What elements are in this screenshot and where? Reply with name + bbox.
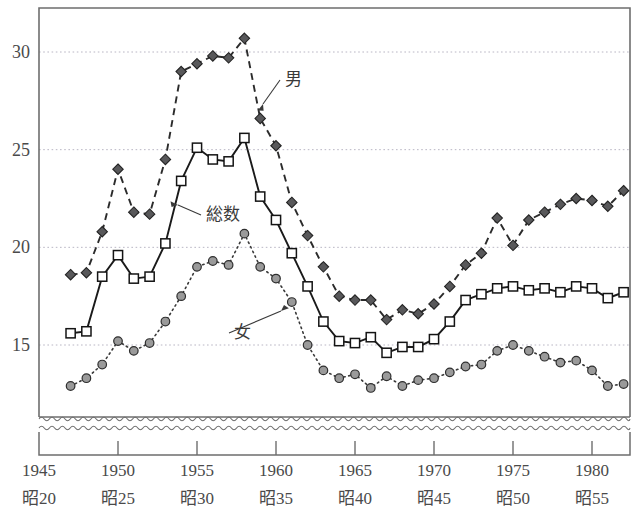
data-point xyxy=(350,295,360,305)
y-tick-label-15: 15 xyxy=(12,335,30,355)
data-point xyxy=(82,374,91,383)
data-point xyxy=(193,263,202,272)
data-point xyxy=(397,305,407,315)
data-point xyxy=(540,284,549,293)
data-point xyxy=(177,176,186,185)
data-point xyxy=(208,155,217,164)
y-tick-label-20: 20 xyxy=(12,237,30,257)
data-point xyxy=(144,209,154,219)
data-point xyxy=(414,376,423,385)
series-label-male-leader xyxy=(263,80,280,104)
series-line-女 xyxy=(71,234,624,388)
data-point xyxy=(130,347,139,356)
series-line-総数 xyxy=(71,138,624,353)
data-point xyxy=(493,284,502,293)
data-point xyxy=(414,342,423,351)
axis-break-symbol xyxy=(39,417,630,429)
x-tick-label-japanese-1970: 昭45 xyxy=(417,489,451,508)
data-point xyxy=(239,33,249,43)
data-point xyxy=(287,249,296,258)
data-point xyxy=(303,282,312,291)
data-point xyxy=(508,240,518,250)
data-point xyxy=(492,213,502,223)
data-point xyxy=(587,195,597,205)
x-tick-label-western-1970: 1970 xyxy=(417,461,451,480)
data-point xyxy=(350,338,359,347)
data-point xyxy=(192,143,201,152)
data-point xyxy=(382,348,391,357)
x-tick-label-japanese-1950: 昭25 xyxy=(101,489,135,508)
y-axis-labels: 15202530 xyxy=(12,42,30,355)
data-point xyxy=(556,288,565,297)
data-point xyxy=(446,368,455,377)
x-tick-label-western-1945: 1945 xyxy=(22,461,56,480)
series-label-male: 男 xyxy=(285,69,302,89)
x-tick-label-japanese-1945: 昭20 xyxy=(22,489,56,508)
x-tick-label-western-1950: 1950 xyxy=(101,461,135,480)
x-tick-label-japanese-1980: 昭55 xyxy=(575,489,609,508)
data-point xyxy=(524,286,533,295)
data-point xyxy=(240,133,249,142)
data-point xyxy=(288,298,297,307)
data-point xyxy=(224,157,233,166)
data-point xyxy=(572,356,581,365)
data-point xyxy=(145,339,154,348)
x-tick-label-japanese-1960: 昭35 xyxy=(259,489,293,508)
data-point xyxy=(209,257,218,266)
data-point xyxy=(334,291,344,301)
data-point xyxy=(161,317,170,326)
data-point xyxy=(98,360,107,369)
data-point xyxy=(445,317,454,326)
line-chart-canvas: 15202530 男総数女 1945昭201950昭251955昭301960昭… xyxy=(0,0,642,522)
data-point xyxy=(366,333,375,342)
data-point xyxy=(556,358,565,367)
data-point xyxy=(524,215,534,225)
x-axis-labels: 1945昭201950昭251955昭301960昭351965昭401970昭… xyxy=(22,461,609,508)
series-label-total: 総数 xyxy=(206,204,240,224)
data-point xyxy=(113,164,123,174)
data-point xyxy=(587,284,596,293)
data-point xyxy=(525,347,534,356)
data-point xyxy=(367,384,376,393)
data-point xyxy=(335,336,344,345)
data-point xyxy=(66,329,75,338)
data-point xyxy=(192,59,202,69)
series-女 xyxy=(66,229,628,392)
data-point xyxy=(97,227,107,237)
wavy-break-upper xyxy=(39,417,630,420)
data-point xyxy=(98,272,107,281)
series-callouts: 男総数女 xyxy=(170,69,302,342)
data-point xyxy=(461,295,470,304)
x-tick-label-western-1960: 1960 xyxy=(259,461,293,480)
data-point xyxy=(318,262,328,272)
data-point xyxy=(413,309,423,319)
data-point xyxy=(445,281,455,291)
chart-figure: 15202530 男総数女 1945昭201950昭251955昭301960昭… xyxy=(0,0,642,522)
x-tick-label-japanese-1955: 昭30 xyxy=(180,489,214,508)
data-point xyxy=(160,154,170,164)
data-point xyxy=(113,251,122,260)
data-point xyxy=(303,341,312,350)
data-point xyxy=(619,380,628,389)
data-point xyxy=(145,272,154,281)
data-point xyxy=(114,337,123,346)
data-point xyxy=(319,366,328,375)
data-point xyxy=(319,317,328,326)
data-point xyxy=(604,382,613,391)
data-point xyxy=(256,192,265,201)
x-tick-label-western-1975: 1975 xyxy=(496,461,530,480)
data-point xyxy=(176,66,186,76)
data-point xyxy=(540,352,549,361)
data-point xyxy=(255,113,265,123)
x-tick-label-japanese-1965: 昭40 xyxy=(338,489,372,508)
data-point xyxy=(572,282,581,291)
y-tick-label-25: 25 xyxy=(12,140,30,160)
data-point xyxy=(477,290,486,299)
data-point xyxy=(161,239,170,248)
data-point xyxy=(571,193,581,203)
data-point xyxy=(603,294,612,303)
data-point xyxy=(430,374,439,383)
data-point xyxy=(398,382,407,391)
data-point xyxy=(335,374,344,383)
x-tick-label-western-1955: 1955 xyxy=(180,461,214,480)
